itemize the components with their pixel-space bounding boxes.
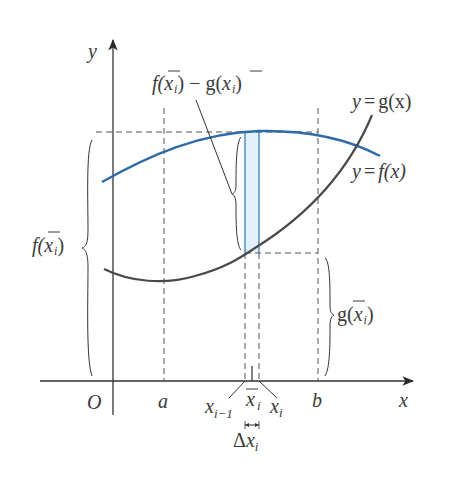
delta-x-label: Δxi [233,429,259,454]
strip-fill [245,131,259,253]
area-between-curves-diagram: y x O a b xi−1 xi xi Δxi y=g(x) y=f(x) f… [0,0,453,480]
tick-xbar-label: xi [245,388,261,413]
origin-label: O [87,391,101,413]
f-height-label: f(xi) [32,234,64,258]
tick-xim1-label: xi−1 [204,395,233,421]
y-axis-label: y [86,40,97,63]
f-height-brace [82,140,92,376]
x-axis-label: x [398,389,408,411]
curve-g [104,115,372,281]
g-height-brace [325,258,334,376]
representative-rectangle [245,131,259,253]
g-height-label: g(xi) [337,303,374,327]
curve-f-label: y=f(x) [350,160,406,183]
tick-a-label: a [158,390,168,412]
tick-xi-label: xi [269,395,283,420]
tick-b-label: b [312,389,322,411]
xim1-leader [229,381,245,398]
curve-g-label: y=g(x) [350,90,412,113]
difference-brace [232,137,241,250]
difference-leader [196,100,232,194]
difference-label: f(xi) − g(xi) [152,72,242,96]
guide-lines [96,108,318,381]
